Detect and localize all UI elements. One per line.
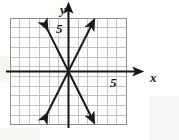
x-axis-tick-label-5: 5 [110, 76, 117, 89]
graph-figure: y x 5 5 [0, 0, 179, 140]
y-axis-label: y [60, 3, 66, 16]
y-axis-tick-label-5: 5 [56, 22, 63, 35]
x-axis-label: x [150, 71, 157, 84]
